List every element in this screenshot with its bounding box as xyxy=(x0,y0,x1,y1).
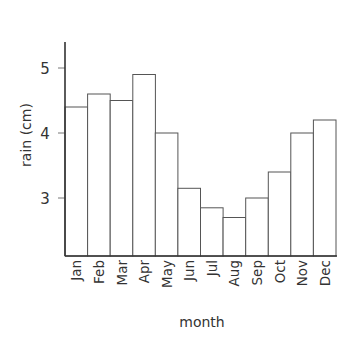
bar-jun xyxy=(178,188,201,256)
x-tick-label: Apr xyxy=(136,260,152,284)
x-tick-label: Jan xyxy=(68,260,84,282)
x-tick-label: Sep xyxy=(249,260,265,285)
bar-jan xyxy=(65,107,88,256)
y-tick-label: 5 xyxy=(40,60,50,78)
x-tick-label: May xyxy=(159,260,175,288)
x-tick-label: Jun xyxy=(181,260,197,282)
x-tick-label: Jul xyxy=(204,260,220,277)
bar-apr xyxy=(133,75,156,257)
bar-may xyxy=(155,133,178,256)
x-axis-tick-labels: JanFebMarAprMayJunJulAugSepOctNovDec xyxy=(68,260,332,288)
x-tick-label: Oct xyxy=(272,260,288,283)
x-tick-label: Dec xyxy=(317,260,333,286)
x-tick-label: Feb xyxy=(91,260,107,284)
bar-jul xyxy=(201,208,224,256)
x-axis-title: month xyxy=(179,314,224,330)
y-tick-label: 4 xyxy=(40,125,50,143)
bar-oct xyxy=(268,172,291,256)
y-axis-ticks: 345 xyxy=(40,60,65,208)
x-tick-label: Aug xyxy=(226,260,242,286)
x-tick-label: Nov xyxy=(294,260,310,286)
bar-nov xyxy=(291,133,314,256)
bar-chart: 345 JanFebMarAprMayJunJulAugSepOctNovDec… xyxy=(0,0,356,359)
bar-dec xyxy=(313,120,336,256)
y-axis-title: rain (cm) xyxy=(18,103,34,167)
bar-aug xyxy=(223,218,246,257)
bar-sep xyxy=(246,198,269,256)
bar-mar xyxy=(110,101,133,257)
x-tick-label: Mar xyxy=(114,260,130,286)
bar-feb xyxy=(88,94,111,256)
y-tick-label: 3 xyxy=(40,190,50,208)
bars-group xyxy=(65,75,336,257)
